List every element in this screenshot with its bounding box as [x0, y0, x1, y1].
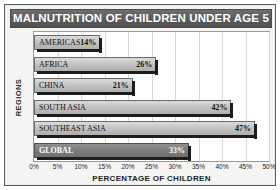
bar-value-label: 33%: [169, 146, 185, 155]
x-axis-tick-label: 45%: [239, 163, 252, 170]
y-axis-title-label: REGIONS: [14, 78, 23, 115]
x-axis-tick-label: 30%: [168, 163, 181, 170]
x-axis-tick-label: 35%: [192, 163, 205, 170]
x-axis-tick-label: 20%: [121, 163, 134, 170]
bar-china[interactable]: CHINA21%: [34, 78, 133, 93]
bar-series: AMERICAS14%AFRICA26%CHINA21%SOUTH ASIA42…: [34, 32, 269, 161]
bar-row[interactable]: AFRICA26%: [34, 57, 269, 72]
bar-category-label: SOUTHEAST ASIA: [39, 124, 106, 133]
bar-global[interactable]: GLOBAL33%: [34, 143, 189, 158]
bar-value-label: 21%: [113, 81, 129, 90]
chart-screenshot: MALNUTRITION OF CHILDREN UNDER AGE 5 REG…: [0, 0, 280, 190]
gridline: [269, 32, 270, 161]
bar-row[interactable]: CHINA21%: [34, 78, 269, 93]
x-axis-tick-label: 25%: [145, 163, 158, 170]
y-axis-title: REGIONS: [11, 31, 26, 163]
bar-americas[interactable]: AMERICAS14%: [34, 35, 100, 50]
chart-title: MALNUTRITION OF CHILDREN UNDER AGE 5: [11, 12, 271, 24]
bar-africa[interactable]: AFRICA26%: [34, 57, 156, 72]
bar-row[interactable]: GLOBAL33%: [34, 143, 269, 158]
bar-southeast-asia[interactable]: SOUTHEAST ASIA47%: [34, 121, 255, 136]
x-axis-tick-label: 50%: [262, 163, 275, 170]
x-axis-tick-label: 40%: [215, 163, 228, 170]
bar-category-label: SOUTH ASIA: [39, 103, 86, 112]
bar-row[interactable]: SOUTHEAST ASIA47%: [34, 121, 269, 136]
x-axis-tick-label: 15%: [98, 163, 111, 170]
x-axis-tick-label: 5%: [53, 163, 62, 170]
bar-value-label: 26%: [136, 60, 152, 69]
plot-area: AMERICAS14%AFRICA26%CHINA21%SOUTH ASIA42…: [33, 31, 270, 162]
x-axis-tick-label: 10%: [74, 163, 87, 170]
bar-category-label: AFRICA: [39, 60, 68, 69]
bar-category-label: GLOBAL: [39, 146, 73, 155]
bar-value-label: 14%: [80, 38, 96, 47]
bar-category-label: AMERICAS: [39, 38, 80, 47]
bar-row[interactable]: SOUTH ASIA42%: [34, 100, 269, 115]
bar-south-asia[interactable]: SOUTH ASIA42%: [34, 100, 231, 115]
x-axis-ticks: 0%5%10%15%20%25%30%35%40%45%50%: [33, 163, 270, 174]
chart-title-banner: MALNUTRITION OF CHILDREN UNDER AGE 5: [10, 9, 272, 28]
bar-value-label: 42%: [211, 103, 227, 112]
bar-category-label: CHINA: [39, 81, 64, 90]
x-axis-title: PERCENTAGE OF CHILDREN: [33, 174, 270, 183]
bar-row[interactable]: AMERICAS14%: [34, 35, 269, 50]
chart-frame: MALNUTRITION OF CHILDREN UNDER AGE 5 REG…: [4, 4, 276, 186]
bar-value-label: 47%: [235, 124, 251, 133]
x-axis-tick-label: 0%: [29, 163, 38, 170]
